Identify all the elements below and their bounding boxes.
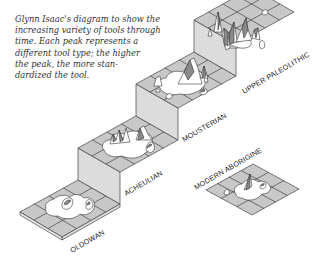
label-mousterian: MOUSTERIAN bbox=[181, 111, 229, 144]
label-acheulian: ACHEULIAN bbox=[123, 168, 165, 197]
label-upper-paleolithic: UPPER PALEOLITHIC bbox=[241, 50, 312, 96]
isometric-staircase-diagram: OLDOWAN ACHEULIAN bbox=[0, 0, 320, 261]
